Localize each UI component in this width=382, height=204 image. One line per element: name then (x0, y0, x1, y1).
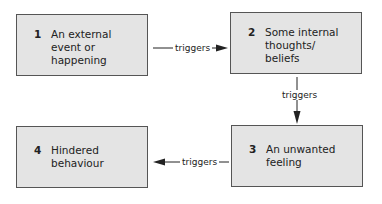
arrowhead-right-icon (216, 45, 228, 52)
node-external-event: 1 An external event or happening (16, 14, 148, 76)
node-text: Some internal thoughts/ beliefs (265, 26, 338, 65)
node-number: 4 (34, 144, 41, 156)
arrowhead-left-icon (153, 159, 165, 166)
node-number: 1 (34, 28, 41, 40)
edge-label-2-3: triggers (280, 90, 319, 100)
edge-label-3-4: triggers (180, 157, 219, 167)
node-text: Hindered behaviour (51, 144, 104, 170)
node-hindered-behaviour: 4 Hindered behaviour (16, 126, 148, 188)
node-text: An external event or happening (51, 28, 111, 67)
edge-label-1-2: triggers (173, 43, 212, 53)
node-internal-thoughts: 2 Some internal thoughts/ beliefs (230, 12, 362, 74)
node-unwanted-feeling: 3 An unwanted feeling (231, 125, 363, 187)
node-number: 2 (248, 26, 255, 38)
arrowhead-down-icon (294, 111, 301, 124)
node-text: An unwanted feeling (266, 143, 335, 169)
node-number: 3 (249, 143, 256, 155)
